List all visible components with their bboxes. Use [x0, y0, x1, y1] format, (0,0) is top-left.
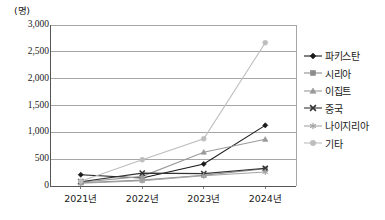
triangle-marker-icon	[303, 85, 323, 97]
legend-item-이집트[interactable]: 이집트	[303, 82, 385, 100]
y-axis-tick: 2,500	[5, 47, 49, 57]
data-point-marker	[263, 123, 268, 128]
legend-item-중국[interactable]: 중국	[303, 100, 385, 118]
series-line	[81, 125, 266, 178]
y-axis-tick: 500	[5, 154, 49, 164]
legend-label: 이집트	[323, 83, 351, 98]
y-axis-tick: 1,000	[5, 128, 49, 138]
legend-label: 중국	[323, 101, 342, 116]
legend-item-파키스탄[interactable]: 파키스탄	[303, 47, 385, 65]
legend-label: 파키스탄	[323, 48, 360, 63]
series-기타	[78, 40, 267, 183]
y-axis-tick: 0	[5, 181, 49, 191]
x-axis-tick: 2021년	[64, 194, 97, 204]
asterisk-marker-icon	[303, 120, 323, 132]
y-axis-tick: 1,500	[5, 101, 49, 111]
x-axis-tick: 2024년	[249, 194, 282, 204]
legend-item-나이지리아[interactable]: 나이지리아	[303, 117, 385, 135]
data-point-marker	[78, 179, 83, 184]
legend-label: 시리아	[323, 66, 351, 81]
data-point-marker	[140, 157, 145, 162]
data-point-marker	[263, 137, 268, 142]
x-axis-tick: 2022년	[126, 194, 159, 204]
data-point-marker	[263, 40, 268, 45]
y-axis-tick: 2,000	[5, 74, 49, 84]
legend-item-시리아[interactable]: 시리아	[303, 65, 385, 83]
data-point-marker	[201, 161, 206, 166]
data-point-marker	[201, 136, 206, 141]
legend-label: 나이지리아	[323, 118, 369, 133]
line-chart: (명) 05001,0001,5002,0002,5003,000 2021년2…	[0, 0, 385, 220]
series-line	[81, 43, 266, 181]
data-point-marker	[78, 172, 83, 177]
diamond-marker-icon	[303, 50, 323, 62]
data-point-marker	[310, 140, 316, 146]
legend-label: 기타	[323, 136, 342, 151]
legend-item-기타[interactable]: 기타	[303, 135, 385, 153]
chart-legend: 파키스탄시리아이집트중국나이지리아기타	[303, 47, 385, 152]
y-axis-tick: 3,000	[5, 20, 49, 30]
data-point-marker	[310, 53, 316, 59]
square-marker-icon	[303, 67, 323, 79]
y-axis-tick-labels: 05001,0001,5002,0002,5003,000	[0, 0, 49, 220]
x-axis-tick: 2023년	[187, 194, 220, 204]
data-point-marker	[311, 71, 316, 76]
circle-marker-icon	[303, 137, 323, 149]
cross-marker-icon	[303, 102, 323, 114]
